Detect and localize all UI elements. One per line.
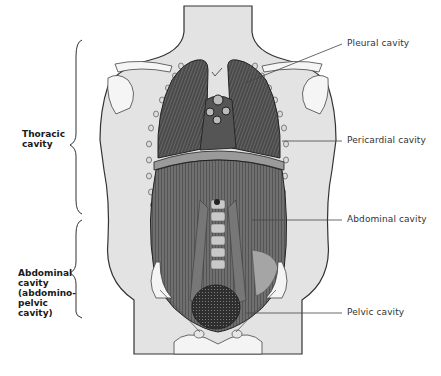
aorta-marker [214,199,220,205]
label-abdominal-cavity: Abdominal cavity (abdomino- pelvic cavit… [18,268,76,318]
label-line: Abdominal [18,268,76,278]
label-pericardial-cavity: Pericardial cavity [347,135,426,145]
pelvic-organ [192,285,240,329]
label-line: pelvic [18,298,76,308]
label-pelvic-cavity: Pelvic cavity [347,307,404,317]
thoracic-brace [70,40,82,214]
label-line: Thoracic [22,129,65,139]
label-pleural-cavity: Pleural cavity [347,38,409,48]
torso-illustration [0,0,441,376]
label-line: cavity [18,278,76,288]
label-thoracic-cavity: Thoracic cavity [22,129,65,149]
label-line: cavity) [18,308,76,318]
label-abdominal-cavity-right: Abdominal cavity [347,214,427,224]
body-cavities-diagram: Thoracic cavity Abdominal cavity (abdomi… [0,0,441,376]
label-line: cavity [22,139,65,149]
label-line: (abdomino- [18,288,76,298]
